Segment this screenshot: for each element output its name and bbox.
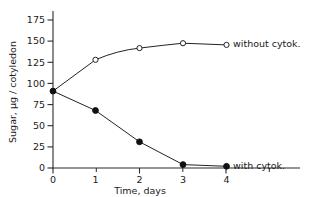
data-point-with-cytok-day2	[137, 139, 143, 145]
y-tick-label-125: 125	[27, 57, 45, 68]
x-axis-title: Time, days	[113, 185, 166, 196]
y-tick-label-100: 100	[27, 78, 45, 89]
data-point-with-cytok-day3	[180, 162, 186, 168]
data-point-with-cytok-day0	[50, 88, 56, 94]
y-axis-tick-labels: 0 25 50 75 100 125 150 175	[27, 14, 45, 173]
sugar-vs-time-line-chart: 0 25 50 75 100 125 150 175 0 1 2 3 4	[0, 0, 310, 197]
data-point-with-cytok-day4	[224, 163, 230, 169]
legend-label-without-cytokinin: without cytok.	[233, 38, 301, 49]
y-tick-label-50: 50	[33, 120, 45, 131]
x-tick-label-1: 1	[92, 174, 98, 185]
data-point-with-cytok-day1	[93, 108, 99, 114]
data-point-without-cytok-day1	[93, 57, 98, 62]
y-axis-title: Sugar, µg / cotyledon	[7, 41, 18, 143]
series-without-cytokinin	[50, 41, 229, 94]
x-tick-label-0: 0	[50, 174, 56, 185]
y-tick-label-25: 25	[33, 141, 45, 152]
chart-figure: 0 25 50 75 100 125 150 175 0 1 2 3 4	[0, 0, 310, 197]
y-tick-label-75: 75	[33, 99, 45, 110]
data-point-without-cytok-day2	[137, 46, 142, 51]
series-with-cytokinin-line	[53, 91, 227, 166]
x-axis-tick-labels: 0 1 2 3 4	[50, 174, 230, 185]
y-tick-label-150: 150	[27, 35, 45, 46]
data-point-without-cytok-day3	[180, 41, 185, 46]
series-with-cytokinin	[50, 88, 229, 169]
x-tick-label-3: 3	[180, 174, 186, 185]
y-tick-label-0: 0	[39, 162, 45, 173]
x-tick-label-4: 4	[223, 174, 229, 185]
y-tick-label-175: 175	[27, 14, 45, 25]
axes-group	[53, 11, 301, 169]
x-tick-label-2: 2	[136, 174, 142, 185]
legend-label-with-cytokinin: with cytok.	[233, 160, 285, 171]
data-point-without-cytok-day4	[224, 42, 229, 47]
